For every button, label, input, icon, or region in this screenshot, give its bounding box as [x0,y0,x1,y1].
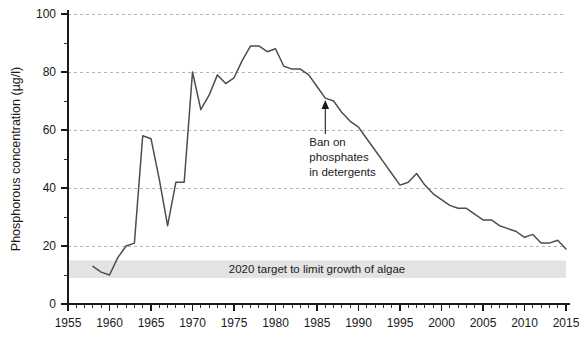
phosphorous-concentration-chart: 2020 target to limit growth of algae 100… [0,0,586,342]
x-tick-label-1985: 1985 [304,316,331,330]
x-tick-marks [68,304,566,311]
y-tick-label-20: 20 [43,239,57,253]
annotation-line-2: phosphates [309,151,369,163]
annotation-line-1: Ban on [309,136,345,148]
x-tick-label-1955: 1955 [55,316,82,330]
x-tick-label-2000: 2000 [428,316,455,330]
chart-canvas: 2020 target to limit growth of algae 100… [0,0,586,342]
y-axis-title: Phosphorous concentration (µg/l) [9,67,23,251]
target-band-label: 2020 target to limit growth of algae [229,263,405,275]
grid-lines [68,14,566,246]
y-tick-label-80: 80 [43,65,57,79]
x-tick-label-1960: 1960 [96,316,123,330]
x-tick-label-1980: 1980 [262,316,289,330]
y-tick-label-0: 0 [49,297,56,311]
y-axis: 100 80 60 40 20 0 Phosphorous concentrat… [9,7,68,311]
x-tick-label-2010: 2010 [511,316,538,330]
annotation-line-3: in detergents [309,166,376,178]
x-tick-labels: 1955196019651970197519801985199019952000… [55,316,580,330]
x-tick-label-1975: 1975 [221,316,248,330]
annotation-arrow-head [322,100,330,109]
x-tick-label-2015: 2015 [553,316,580,330]
x-tick-label-1990: 1990 [345,316,372,330]
x-tick-label-1965: 1965 [138,316,165,330]
x-tick-label-2005: 2005 [470,316,497,330]
x-tick-label-1970: 1970 [179,316,206,330]
annotation-ban-on-phosphates: Ban on phosphates in detergents [309,100,376,178]
x-tick-label-1995: 1995 [387,316,414,330]
y-tick-label-60: 60 [43,123,57,137]
x-axis: 1955196019651970197519801985199019952000… [55,304,580,330]
y-tick-label-100: 100 [36,7,56,21]
y-tick-label-40: 40 [43,181,57,195]
